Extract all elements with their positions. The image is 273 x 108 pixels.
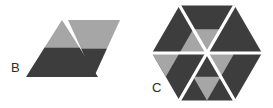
panel-c: C bbox=[152, 6, 262, 101]
panel-b-label: B bbox=[11, 60, 20, 75]
panel-c-label: C bbox=[152, 80, 162, 95]
shapes-figure: B C bbox=[0, 0, 273, 108]
panel-b: B bbox=[11, 20, 120, 77]
figure-canvas: B C bbox=[0, 0, 273, 108]
